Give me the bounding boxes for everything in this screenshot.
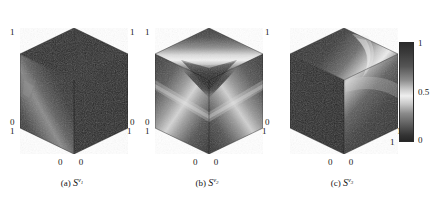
cube-surface-b <box>155 28 263 154</box>
colorbar: 1 0.5 0 1 <box>399 42 438 146</box>
tick-b-left-top: 1 <box>145 28 150 37</box>
panel-c: 1 0 0 (c) Sv3 <box>272 0 412 203</box>
tick-a-right-bottom-lower: 1 <box>127 127 132 136</box>
caption-a: (a) Sv1 <box>2 176 142 188</box>
tick-b-right-top: 1 <box>265 28 270 37</box>
cube-plot-c <box>290 28 398 154</box>
tick-a-bottom: 0 0 <box>58 158 90 167</box>
caption-b: (b) Sv2 <box>137 176 277 188</box>
caption-b-superscript: v2 <box>213 176 218 183</box>
colorbar-tick-1: 1 <box>418 39 423 48</box>
colorbar-extra-label: 1 <box>390 138 395 147</box>
colorbar-tick-0: 0 <box>418 136 423 145</box>
cube-surface-a <box>20 28 128 154</box>
caption-a-superscript: v1 <box>78 176 83 183</box>
caption-c-superscript: v3 <box>348 176 353 183</box>
colorbar-tick-0-5: 0.5 <box>418 88 429 97</box>
tick-b-left-bottom-lower: 1 <box>145 127 150 136</box>
caption-c: (c) Sv3 <box>272 176 412 188</box>
caption-a-prefix: (a) <box>61 178 71 188</box>
cube-surface-c <box>290 28 398 154</box>
tick-a-right-top: 1 <box>130 28 135 37</box>
cube-plot-b <box>155 28 263 154</box>
tick-a-left-bottom-lower: 1 <box>10 127 15 136</box>
colorbar-gradient <box>399 42 414 142</box>
tick-c-bottom: 0 0 <box>328 158 360 167</box>
tick-a-left-top: 1 <box>10 28 15 37</box>
tick-b-bottom: 0 0 <box>193 158 225 167</box>
cube-plot-a <box>20 28 128 154</box>
caption-c-prefix: (c) <box>331 178 341 188</box>
panel-a: 1 0 1 1 0 1 0 0 (a) Sv1 <box>2 0 142 203</box>
tick-b-right-bottom-lower: 1 <box>262 127 267 136</box>
caption-b-prefix: (b) <box>195 178 206 188</box>
figure-container: 1 0 1 1 0 1 0 0 (a) Sv1 <box>0 0 438 203</box>
panel-b: 1 0 1 1 0 1 0 0 (b) Sv2 <box>137 0 277 203</box>
